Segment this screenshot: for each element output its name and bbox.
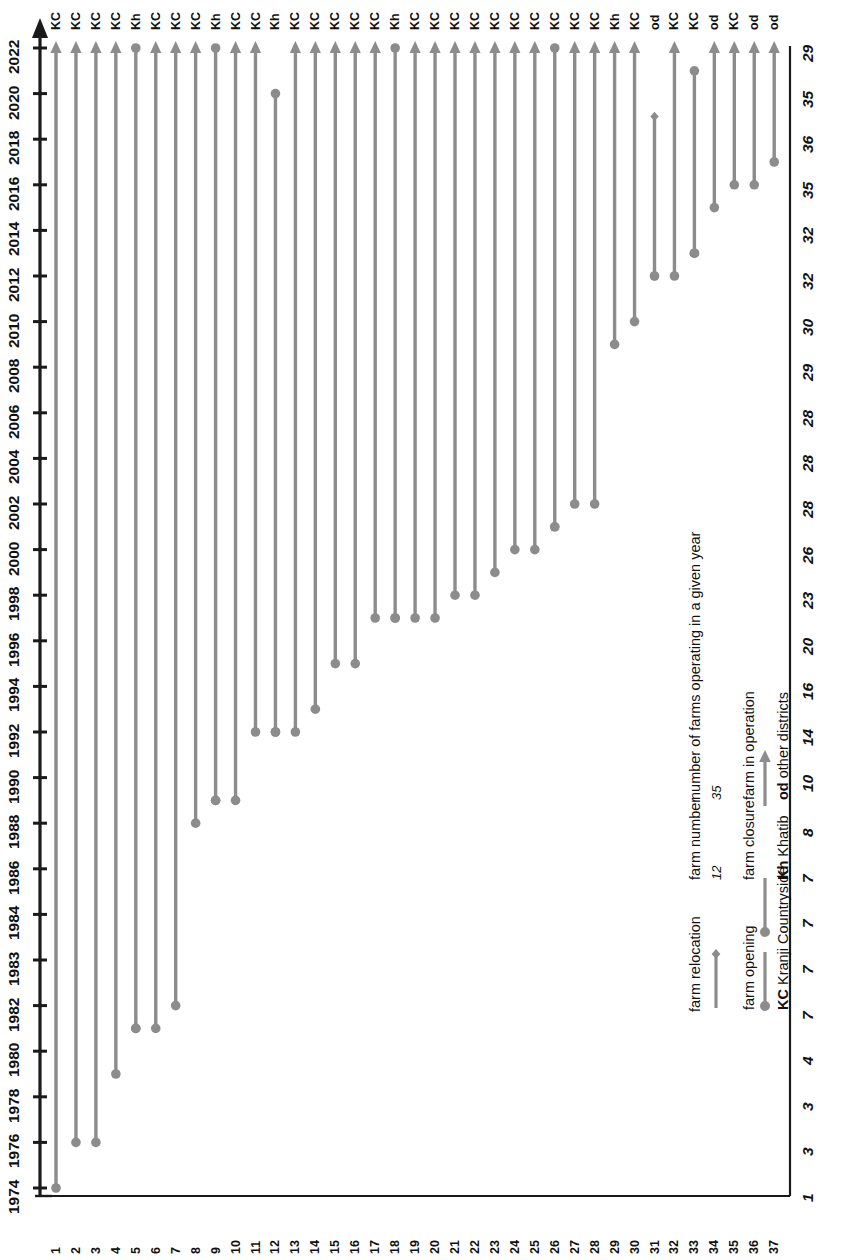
farm-closure-dot — [271, 89, 281, 99]
farm-count-label: 3 — [800, 1102, 816, 1111]
axis-layer — [32, 18, 790, 1196]
year-tick-label: 2014 — [6, 222, 22, 256]
legend-symbol-label: farm closure — [742, 800, 757, 880]
farm-number-label: 10 — [230, 1240, 243, 1254]
farm-opening-dot — [670, 271, 680, 281]
farm-count-label: 4 — [800, 1057, 816, 1066]
farm-opening-dot — [550, 522, 560, 532]
farm-number-label: 16 — [349, 1240, 362, 1254]
farm-number-label: 18 — [389, 1240, 402, 1254]
year-tick-label: 2012 — [6, 268, 22, 302]
farm-number-label: 14 — [309, 1240, 322, 1254]
farm-count-label: 28 — [800, 410, 816, 427]
district-code-label: KC — [309, 12, 322, 30]
farm-number-label: 11 — [250, 1241, 263, 1254]
farm-in-operation-arrow — [230, 41, 241, 53]
year-tick-label: 2018 — [6, 131, 22, 165]
chart-canvas: 1974197619781980198219831984198619881990… — [0, 0, 846, 1260]
district-code-label: KC — [509, 12, 522, 30]
legend-district-code: Kh — [775, 861, 791, 880]
district-code-label: KC — [668, 12, 681, 30]
farm-bar — [669, 41, 680, 276]
farm-bar — [211, 43, 221, 805]
farm-in-operation-arrow — [449, 41, 460, 53]
farm-number-label: 15 — [329, 1240, 342, 1254]
farm-in-operation-arrow — [350, 41, 361, 53]
farm-opening-dot — [171, 1001, 181, 1011]
farm-bar — [609, 41, 620, 345]
legend-district-entry: od other districts — [775, 692, 791, 800]
district-code-label: KC — [349, 12, 362, 30]
farm-in-operation-arrow — [110, 41, 121, 53]
farm-in-operation-arrow — [509, 41, 520, 53]
farm-count-label: 8 — [800, 829, 816, 838]
farm-bar — [469, 41, 480, 595]
farm-number-label: 8 — [190, 1247, 203, 1254]
farm-opening-dot — [510, 545, 520, 555]
farm-in-operation-arrow — [569, 41, 580, 53]
district-code-label: KC — [250, 12, 263, 30]
farm-opening-dot — [769, 157, 779, 167]
district-code-label: KC — [728, 12, 741, 30]
farm-number-label: 5 — [130, 1247, 143, 1254]
district-code-label: KC — [589, 12, 602, 30]
farm-opening-dot — [51, 1183, 61, 1193]
farm-bar — [390, 43, 400, 623]
legend-district-entry: Kh Khatib — [775, 816, 791, 881]
farm-number-label: 31 — [649, 1240, 662, 1254]
farm-number-label: 30 — [629, 1240, 642, 1254]
legend-district-label: Kranji Countryside — [775, 867, 791, 990]
district-code-label: od — [768, 15, 781, 30]
farm-number-label: 9 — [210, 1247, 223, 1254]
year-tick-label: 1978 — [6, 1088, 22, 1122]
farm-count-label: 36 — [800, 136, 816, 153]
farm-number-label: 29 — [609, 1240, 622, 1254]
year-tick-label: 1992 — [6, 724, 22, 758]
farm-opening-dot — [191, 818, 201, 828]
farm-opening-dot — [151, 1024, 161, 1034]
farm-bar — [410, 41, 421, 618]
farm-bar — [290, 41, 301, 732]
district-code-label: KC — [329, 12, 342, 30]
farm-bar — [690, 66, 700, 258]
district-code-label: KC — [90, 12, 103, 30]
farm-closure-dot — [550, 43, 560, 53]
year-tick-label: 1976 — [6, 1134, 22, 1168]
farm-opening-dot — [350, 659, 360, 669]
timeline-plot — [0, 0, 846, 1260]
district-code-label: KC — [429, 12, 442, 30]
year-tick-label: 1983 — [6, 952, 22, 986]
farm-bar — [70, 41, 81, 1143]
district-code-label: KC — [688, 12, 701, 30]
farm-opening-dot — [291, 727, 301, 737]
year-tick-label: 1990 — [6, 769, 22, 803]
farm-in-operation-arrow — [489, 41, 500, 53]
farm-number-label: 33 — [688, 1240, 701, 1254]
farm-closure-dot — [211, 43, 221, 53]
district-code-label: KC — [549, 12, 562, 30]
district-code-label: KC — [110, 12, 123, 30]
farm-opening-dot — [390, 613, 400, 623]
farm-in-operation-arrow — [769, 41, 780, 53]
year-tick-label: 2022 — [6, 40, 22, 74]
farm-in-operation-arrow — [469, 41, 480, 53]
district-code-label: Kh — [130, 13, 143, 30]
farm-bar — [650, 112, 659, 281]
farm-opening-dot — [490, 568, 500, 578]
farm-bar — [190, 41, 201, 823]
farm-in-operation-arrow — [589, 41, 600, 53]
district-code-label: KC — [489, 12, 502, 30]
farm-in-operation-arrow — [330, 41, 341, 53]
year-tick-label: 1996 — [6, 632, 22, 666]
farm-number-label: 28 — [589, 1240, 602, 1254]
district-code-label: od — [708, 15, 721, 30]
farm-number-label: 34 — [708, 1240, 721, 1254]
legend-farm-in-operation-arrow — [759, 750, 771, 762]
farm-in-operation-arrow — [90, 41, 101, 53]
farm-number-label: 27 — [569, 1240, 582, 1254]
farm-bar — [749, 41, 760, 185]
farm-opening-dot — [131, 1024, 141, 1034]
farm-opening-dot — [630, 317, 640, 327]
farm-count-label: 32 — [800, 273, 816, 290]
farm-in-operation-arrow — [290, 41, 301, 53]
